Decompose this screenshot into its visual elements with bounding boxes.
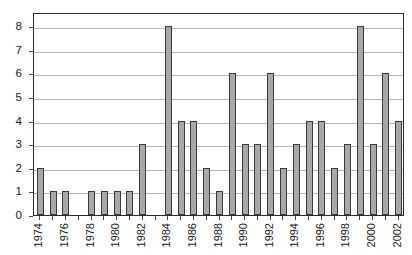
x-tick-label: 1990 bbox=[238, 223, 249, 247]
y-tick-label: 6 bbox=[16, 69, 22, 81]
x-tick-mark bbox=[321, 216, 322, 220]
bar bbox=[229, 73, 236, 215]
y-tick-label: 3 bbox=[16, 139, 22, 151]
x-tick-mark bbox=[52, 216, 53, 220]
bar bbox=[62, 191, 69, 215]
bar bbox=[216, 191, 223, 215]
bar bbox=[395, 121, 402, 215]
x-tick-mark bbox=[167, 216, 168, 220]
bar bbox=[88, 191, 95, 215]
x-tick-label: 1974 bbox=[33, 223, 44, 247]
bar bbox=[165, 26, 172, 215]
x-tick-mark bbox=[129, 216, 130, 220]
bar bbox=[203, 168, 210, 215]
x-tick-mark bbox=[193, 216, 194, 220]
bar bbox=[190, 121, 197, 215]
x-tick-mark bbox=[295, 216, 296, 220]
bar bbox=[293, 144, 300, 215]
x-tick-mark bbox=[257, 216, 258, 220]
x-tick-mark bbox=[142, 216, 143, 220]
x-tick-mark bbox=[231, 216, 232, 220]
x-tick-mark bbox=[398, 216, 399, 220]
x-tick-mark bbox=[372, 216, 373, 220]
y-tick-label: 2 bbox=[16, 163, 22, 175]
bar bbox=[50, 191, 57, 215]
x-tick-mark bbox=[282, 216, 283, 220]
x-axis: 1974197619781980198219841986198819901992… bbox=[33, 216, 404, 255]
x-tick-mark bbox=[180, 216, 181, 220]
x-tick-label: 1994 bbox=[289, 223, 300, 247]
x-tick-label: 1984 bbox=[161, 223, 172, 247]
x-tick-label: 1998 bbox=[340, 223, 351, 247]
bar bbox=[178, 121, 185, 215]
x-tick-mark bbox=[244, 216, 245, 220]
y-tick-label: 7 bbox=[16, 45, 22, 57]
y-tick-label: 0 bbox=[16, 210, 22, 222]
bar bbox=[306, 121, 313, 215]
x-tick-label: 1992 bbox=[264, 223, 275, 247]
x-tick-mark bbox=[270, 216, 271, 220]
bar bbox=[114, 191, 121, 215]
bar bbox=[101, 191, 108, 215]
bar bbox=[344, 144, 351, 215]
y-tick-label: 5 bbox=[16, 92, 22, 104]
bar bbox=[139, 144, 146, 215]
x-tick-label: 1978 bbox=[85, 223, 96, 247]
x-tick-mark bbox=[39, 216, 40, 220]
bar-chart: 012345678 197419761978198019821984198619… bbox=[0, 0, 412, 255]
x-tick-mark bbox=[359, 216, 360, 220]
x-tick-mark bbox=[116, 216, 117, 220]
x-tick-label: 1988 bbox=[213, 223, 224, 247]
x-tick-label: 1982 bbox=[136, 223, 147, 247]
x-tick-label: 1996 bbox=[315, 223, 326, 247]
y-tick-label: 8 bbox=[16, 21, 22, 33]
x-tick-label: 1976 bbox=[59, 223, 70, 247]
bar bbox=[280, 168, 287, 215]
x-tick-mark bbox=[308, 216, 309, 220]
bar bbox=[370, 144, 377, 215]
x-tick-mark bbox=[103, 216, 104, 220]
x-tick-mark bbox=[219, 216, 220, 220]
x-tick-label: 1980 bbox=[110, 223, 121, 247]
x-tick-mark bbox=[385, 216, 386, 220]
x-tick-mark bbox=[78, 216, 79, 220]
bars-layer bbox=[34, 14, 403, 215]
x-tick-label: 2000 bbox=[366, 223, 377, 247]
x-tick-mark bbox=[91, 216, 92, 220]
y-tick-label: 4 bbox=[16, 116, 22, 128]
plot-area bbox=[33, 13, 404, 216]
x-tick-mark bbox=[206, 216, 207, 220]
bar bbox=[242, 144, 249, 215]
bar bbox=[37, 168, 44, 215]
bar bbox=[331, 168, 338, 215]
bar bbox=[267, 73, 274, 215]
x-tick-mark bbox=[155, 216, 156, 220]
y-axis: 012345678 bbox=[0, 13, 29, 216]
bar bbox=[254, 144, 261, 215]
x-tick-mark bbox=[334, 216, 335, 220]
bar bbox=[126, 191, 133, 215]
y-tick-label: 1 bbox=[16, 187, 22, 199]
x-tick-mark bbox=[65, 216, 66, 220]
x-tick-label: 2002 bbox=[392, 223, 403, 247]
x-tick-mark bbox=[346, 216, 347, 220]
bar bbox=[357, 26, 364, 215]
bar bbox=[382, 73, 389, 215]
bar bbox=[318, 121, 325, 215]
x-tick-label: 1986 bbox=[187, 223, 198, 247]
